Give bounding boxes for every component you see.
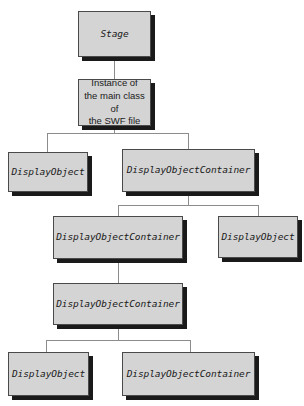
node-label: DisplayObjectContainer [54, 299, 182, 310]
connector-doc1-stem [188, 192, 189, 205]
node-do3: DisplayObject [8, 352, 89, 396]
node-label: DisplayObject [219, 232, 297, 243]
node-label: DisplayObjectContainer [123, 369, 254, 380]
node-stage: Stage [78, 11, 151, 57]
node-label: DisplayObject [9, 167, 87, 178]
connector-stage-to-main [114, 57, 115, 79]
node-doc2: DisplayObjectContainer [53, 216, 183, 259]
node-doc4: DisplayObjectContainer [122, 352, 255, 396]
connector-doc2-to-doc3 [118, 259, 119, 283]
node-label: DisplayObjectContainer [123, 165, 254, 176]
node-do1: DisplayObject [8, 152, 88, 192]
node-label: Stage [79, 29, 150, 40]
connector-main-drop-right [188, 133, 189, 149]
connector-doc3-drop-right [190, 340, 191, 352]
connector-doc3-drop-left [46, 340, 47, 352]
node-label: DisplayObjectContainer [54, 232, 182, 243]
node-doc3: DisplayObjectContainer [53, 283, 183, 325]
connector-doc3-stem [118, 325, 119, 340]
display-list-diagram: StageInstance of the main class of the S… [0, 0, 304, 406]
node-main: Instance of the main class of the SWF fi… [78, 79, 151, 126]
node-label: Instance of the main class of the SWF fi… [79, 79, 150, 126]
node-doc1: DisplayObjectContainer [122, 149, 255, 192]
connector-doc1-drop-left [118, 205, 119, 216]
node-do2: DisplayObject [218, 216, 298, 258]
connector-doc3-bus [46, 340, 190, 341]
connector-main-drop-left [47, 133, 48, 152]
node-label: DisplayObject [9, 369, 88, 380]
connector-doc1-bus [118, 205, 258, 206]
connector-main-bus [47, 133, 188, 134]
connector-doc1-drop-right [258, 205, 259, 216]
